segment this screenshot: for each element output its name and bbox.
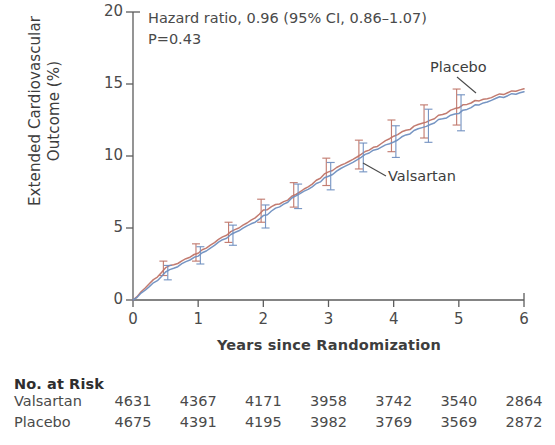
series-placebo	[133, 89, 524, 300]
curves	[133, 89, 524, 300]
x-tick-label: 6	[512, 310, 536, 328]
risk-row-value: 3982	[306, 414, 352, 430]
hazard-ratio-text: Hazard ratio, 0.96 (95% CI, 0.86–1.07)	[148, 8, 427, 29]
risk-row-value: 4675	[110, 414, 156, 430]
y-tick-label: 0	[81, 290, 123, 308]
risk-row-value: 2864	[501, 393, 547, 409]
y-axis-label: Extended Cardiovascular Outcome (%)	[26, 0, 64, 236]
risk-row-value: 2872	[501, 414, 547, 430]
risk-row-label: Placebo	[14, 414, 71, 430]
risk-row-value: 4171	[240, 393, 286, 409]
y-tick-label: 5	[81, 218, 123, 236]
x-tick-label: 2	[251, 310, 275, 328]
risk-row-value: 3540	[436, 393, 482, 409]
p-value-text: P=0.43	[148, 29, 427, 50]
statistics-annotation: Hazard ratio, 0.96 (95% CI, 0.86–1.07) P…	[148, 8, 427, 50]
risk-row-value: 3769	[371, 414, 417, 430]
x-axis-label: Years since Randomization	[133, 337, 525, 353]
x-tick-label: 3	[317, 310, 341, 328]
x-tick-label: 4	[382, 310, 406, 328]
risk-row-value: 3569	[436, 414, 482, 430]
x-tick-label: 1	[186, 310, 210, 328]
risk-row-value: 4391	[175, 414, 221, 430]
risk-row-value: 4195	[240, 414, 286, 430]
kaplan-meier-figure: Extended Cardiovascular Outcome (%) Year…	[0, 0, 555, 445]
risk-table-title: No. at Risk	[14, 376, 555, 392]
risk-row-value: 4367	[175, 393, 221, 409]
risk-table-row: Valsartan4631436741713958374235402864	[14, 393, 555, 414]
risk-table-rows: Valsartan4631436741713958374235402864Pla…	[14, 393, 555, 435]
curve-label-valsartan: Valsartan	[388, 168, 456, 184]
x-tick-label: 0	[121, 310, 145, 328]
y-tick-label: 10	[81, 146, 123, 164]
number-at-risk-table: No. at Risk Valsartan4631436741713958374…	[14, 376, 555, 435]
axes	[126, 12, 524, 307]
y-tick-label: 15	[81, 74, 123, 92]
risk-table-row: Placebo4675439141953982376935692872	[14, 414, 555, 435]
risk-row-label: Valsartan	[14, 393, 82, 409]
y-tick-label: 20	[81, 2, 123, 20]
curve-label-placebo: Placebo	[430, 59, 487, 75]
x-tick-label: 5	[447, 310, 471, 328]
risk-row-value: 3742	[371, 393, 417, 409]
y-axis-label-line1: Extended Cardiovascular	[26, 16, 44, 206]
risk-row-value: 3958	[306, 393, 352, 409]
risk-row-value: 4631	[110, 393, 156, 409]
series-valsartan	[133, 92, 524, 300]
label-leader-lines	[363, 77, 476, 176]
y-axis-label-line2: Outcome (%)	[45, 61, 63, 161]
